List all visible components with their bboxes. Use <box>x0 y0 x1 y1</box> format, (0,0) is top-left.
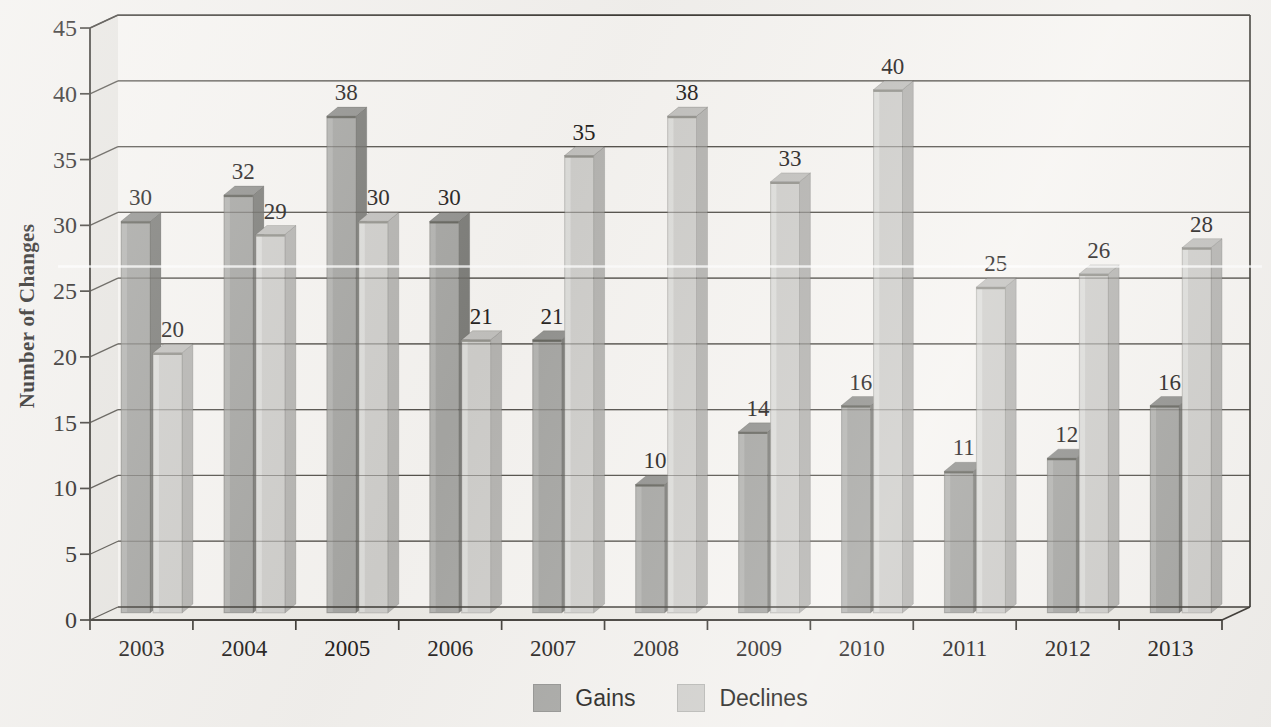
x-tick-label: 2013 <box>1148 636 1194 661</box>
x-tick-label: 2007 <box>530 636 576 661</box>
bar-side-face <box>697 107 708 613</box>
bar-highlight <box>566 157 571 612</box>
bar-highlight <box>977 288 982 612</box>
bar-side-face <box>491 331 502 613</box>
bar-value-label-gains-2004: 32 <box>232 159 255 184</box>
bar-value-label-gains-2011: 11 <box>953 435 975 460</box>
bar-value-label-gains-2008: 10 <box>644 448 667 473</box>
x-tick-label: 2011 <box>942 636 987 661</box>
bar-chart-canvas: 3020322938303021213510381433164011251226… <box>0 0 1271 727</box>
bar-highlight <box>360 222 365 612</box>
bar-highlight <box>1183 249 1188 612</box>
bar-highlight <box>328 117 333 612</box>
gains-swatch <box>533 684 561 712</box>
y-tick-label: 45 <box>53 15 77 41</box>
left-wall <box>90 15 118 620</box>
bar-highlight <box>842 407 847 612</box>
bar-highlight <box>1048 459 1053 612</box>
y-tick-label: 35 <box>53 147 77 173</box>
legend-item-declines: Declines <box>677 684 807 712</box>
bar-declines-2007 <box>565 147 605 613</box>
y-tick-label: 25 <box>53 278 77 304</box>
bar-value-label-declines-2007: 35 <box>573 120 596 145</box>
bar-highlight <box>669 117 674 612</box>
bar-highlight <box>122 222 127 612</box>
bar-highlight <box>771 183 776 612</box>
bar-value-label-declines-2012: 26 <box>1087 238 1110 263</box>
bar-highlight <box>257 236 262 612</box>
bar-value-label-declines-2013: 28 <box>1190 212 1213 237</box>
bar-declines-2010 <box>873 81 913 613</box>
x-tick-label: 2004 <box>221 636 268 661</box>
bar-value-label-gains-2009: 14 <box>746 396 770 421</box>
legend-item-gains: Gains <box>533 684 635 712</box>
bar-highlight <box>739 433 744 612</box>
bar-declines-2011 <box>976 278 1016 613</box>
bar-declines-2013 <box>1182 239 1222 613</box>
bar-value-label-gains-2006: 30 <box>438 185 461 210</box>
bar-highlight <box>463 341 468 612</box>
x-tick-label: 2009 <box>736 636 782 661</box>
bar-declines-2012 <box>1079 265 1119 613</box>
y-tick-label: 0 <box>65 607 77 633</box>
bar-value-label-declines-2008: 38 <box>676 80 699 105</box>
bar-value-label-gains-2003: 30 <box>129 185 152 210</box>
x-tick-label: 2010 <box>839 636 885 661</box>
bar-highlight <box>154 354 159 612</box>
y-tick-label: 10 <box>53 475 77 501</box>
y-axis-title: Number of Changes <box>15 224 40 408</box>
bar-declines-2008 <box>668 107 708 613</box>
bar-side-face <box>388 212 399 613</box>
bar-value-label-declines-2006: 21 <box>470 304 493 329</box>
bar-highlight <box>534 341 539 612</box>
bar-value-label-gains-2007: 21 <box>541 304 564 329</box>
bar-declines-2005 <box>359 212 399 613</box>
legend-label-gains: Gains <box>575 685 635 712</box>
bar-side-face <box>285 226 296 613</box>
bar-value-label-declines-2011: 25 <box>984 251 1007 276</box>
x-tick-label: 2003 <box>118 636 164 661</box>
bar-side-face <box>902 81 913 613</box>
bar-declines-2003 <box>153 344 193 613</box>
bar-highlight <box>225 196 230 612</box>
x-tick-label: 2012 <box>1045 636 1091 661</box>
chart-legend: Gains Declines <box>70 681 1271 715</box>
bar-value-label-declines-2003: 20 <box>161 317 184 342</box>
bar-highlight <box>1151 407 1156 612</box>
bar-side-face <box>1005 278 1016 613</box>
y-tick-label: 30 <box>53 212 77 238</box>
bar-declines-2006 <box>462 331 502 613</box>
bar-declines-2004 <box>256 226 296 613</box>
legend-label-declines: Declines <box>719 685 807 712</box>
bar-side-face <box>799 173 810 613</box>
bar-value-label-gains-2010: 16 <box>849 370 872 395</box>
bar-highlight <box>874 91 879 612</box>
y-tick-label: 5 <box>65 541 77 567</box>
declines-swatch <box>677 684 705 712</box>
bar-value-label-gains-2013: 16 <box>1158 370 1181 395</box>
bar-value-label-gains-2012: 12 <box>1055 422 1078 447</box>
bar-highlight <box>431 222 436 612</box>
bar-value-label-declines-2009: 33 <box>778 146 801 171</box>
bar-highlight <box>945 472 950 612</box>
bar-highlight <box>1080 275 1085 612</box>
bar-value-label-declines-2010: 40 <box>881 54 904 79</box>
x-tick-label: 2008 <box>633 636 679 661</box>
bar-declines-2009 <box>770 173 810 613</box>
x-tick-label: 2006 <box>427 636 473 661</box>
bar-side-face <box>182 344 193 613</box>
bar-value-label-gains-2005: 38 <box>335 80 358 105</box>
scanned-chart-page: 3020322938303021213510381433164011251226… <box>0 0 1271 727</box>
bar-side-face <box>1108 265 1119 613</box>
bar-value-label-declines-2005: 30 <box>367 185 390 210</box>
y-tick-label: 40 <box>53 81 77 107</box>
bar-value-label-declines-2004: 29 <box>264 199 287 224</box>
bar-side-face <box>1211 239 1222 613</box>
x-tick-label: 2005 <box>324 636 370 661</box>
bar-side-face <box>594 147 605 613</box>
y-tick-label: 20 <box>53 344 77 370</box>
bar-highlight <box>637 485 642 612</box>
y-tick-label: 15 <box>53 410 77 436</box>
